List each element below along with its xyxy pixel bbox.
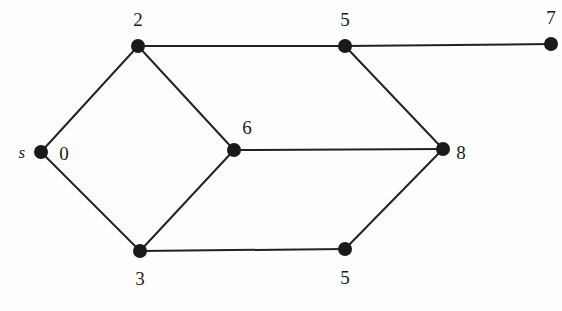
graph-node bbox=[34, 145, 48, 159]
graph-node-label: 2 bbox=[133, 10, 143, 29]
graph-figure: s02365587 bbox=[0, 0, 562, 311]
graph-node bbox=[227, 143, 241, 157]
graph-edge bbox=[140, 249, 345, 251]
graph-node bbox=[338, 39, 352, 53]
graph-node bbox=[544, 37, 558, 51]
graph-edge bbox=[140, 150, 234, 251]
graph-node bbox=[131, 39, 145, 53]
graph-node-label: 7 bbox=[546, 8, 556, 27]
graph-edge bbox=[234, 149, 443, 150]
graph-node-label: s bbox=[19, 144, 26, 161]
graph-node-distance-label: 0 bbox=[59, 144, 69, 163]
graph-node-label: 3 bbox=[135, 269, 145, 288]
graph-canvas bbox=[0, 0, 562, 311]
graph-edge bbox=[41, 46, 138, 152]
graph-node-label: 6 bbox=[242, 118, 252, 137]
graph-node bbox=[338, 242, 352, 256]
edge-layer bbox=[41, 44, 551, 251]
graph-node-label: 8 bbox=[456, 143, 466, 162]
graph-edge bbox=[41, 152, 140, 251]
graph-node bbox=[436, 142, 450, 156]
graph-edge bbox=[345, 46, 443, 149]
graph-edge bbox=[345, 149, 443, 249]
graph-node-label: 5 bbox=[340, 268, 350, 287]
graph-edge bbox=[345, 44, 551, 46]
graph-node bbox=[133, 244, 147, 258]
graph-node-label: 5 bbox=[340, 10, 350, 29]
graph-edge bbox=[138, 46, 234, 150]
